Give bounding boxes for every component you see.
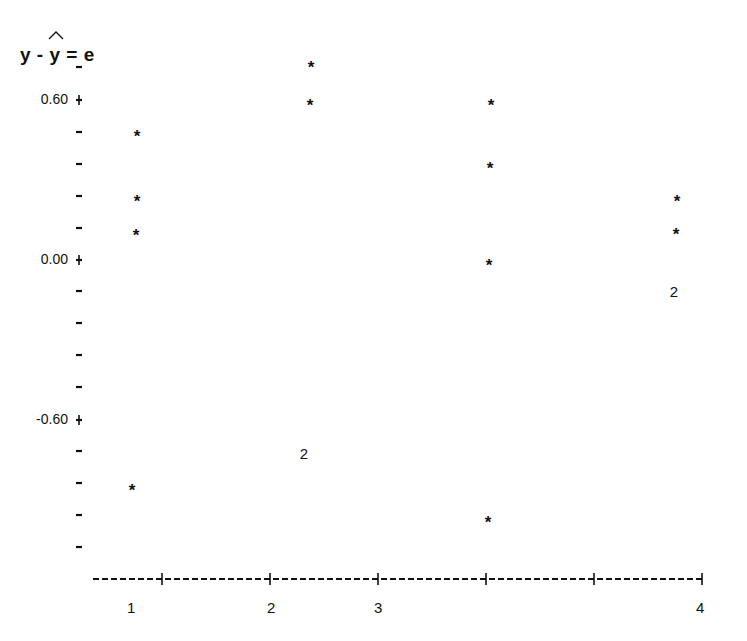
x-tick-label: 1: [127, 599, 135, 616]
data-point-star: *: [129, 193, 145, 210]
data-point-star: *: [668, 226, 684, 243]
data-point-count: 2: [296, 446, 312, 462]
data-point-star: *: [129, 128, 145, 145]
x-tick-label: 3: [374, 599, 382, 616]
x-tick-label: 4: [696, 599, 704, 616]
x-tick-label: 2: [267, 599, 275, 616]
data-point-star: *: [480, 514, 496, 531]
y-tick-label: -0.60: [18, 411, 68, 427]
data-point-star: *: [481, 257, 497, 274]
y-tick-label: 0.00: [18, 251, 68, 267]
data-point-star: *: [669, 193, 685, 210]
data-point-count: 2: [666, 284, 682, 300]
y-tick-label: 0.60: [18, 91, 68, 107]
data-point-star: *: [482, 160, 498, 177]
data-point-star: *: [303, 59, 319, 76]
data-point-star: *: [483, 97, 499, 114]
data-point-star: *: [124, 482, 140, 499]
data-point-star: *: [128, 227, 144, 244]
plot-area: [0, 0, 747, 641]
data-point-star: *: [302, 97, 318, 114]
